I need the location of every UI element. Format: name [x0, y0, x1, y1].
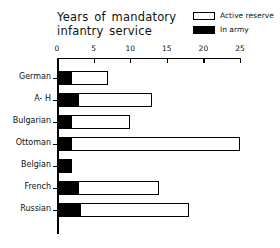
x-tick-10 [130, 59, 131, 63]
stacked-bar [57, 115, 130, 129]
x-tick-5 [94, 59, 95, 63]
bar-row-bulgarian: Bulgarian [57, 112, 247, 134]
x-tick-label-5: 5 [91, 44, 96, 53]
stacked-bar [57, 159, 72, 173]
bar-segment-in-army [57, 203, 81, 217]
chart-title-line-2: infantry service [57, 25, 207, 39]
stacked-bar [57, 71, 108, 85]
bar-segment-in-army [57, 93, 79, 107]
bar-segment-active-reserve [72, 137, 240, 151]
category-label-ottoman: Ottoman [16, 138, 51, 147]
bar-segment-in-army [57, 115, 72, 129]
chart-title-line-1: Years of mandatory [57, 11, 207, 25]
x-tick-label-20: 20 [199, 44, 209, 53]
category-label-german: German [19, 72, 51, 81]
plot-area: 0510152025 GermanA- HBulgarianOttomanBel… [57, 44, 280, 234]
legend-item-active-reserve: Active reserve [193, 10, 279, 21]
x-axis-line [57, 58, 241, 59]
stacked-bar [57, 181, 159, 195]
category-label-french: French [24, 182, 51, 191]
x-tick-label-15: 15 [162, 44, 172, 53]
bar-segment-active-reserve [81, 203, 189, 217]
mandatory-service-bar-chart: Years of mandatory infantry service Acti… [0, 0, 280, 248]
bar-row-a-h: A- H [57, 90, 247, 112]
bar-segment-active-reserve [79, 181, 160, 195]
bar-row-french: French [57, 178, 247, 200]
x-tick-label-10: 10 [125, 44, 135, 53]
category-label-bulgarian: Bulgarian [13, 116, 51, 125]
legend-swatch-active-reserve-icon [193, 12, 215, 20]
x-tick-20 [203, 59, 204, 63]
x-tick-25 [240, 59, 241, 63]
legend-swatch-in-army-icon [193, 26, 215, 34]
bar-row-ottoman: Ottoman [57, 134, 247, 156]
x-tick-15 [167, 59, 168, 63]
x-tick-label-0: 0 [55, 44, 60, 53]
legend-item-in-army: In army [193, 24, 279, 35]
bar-row-belgian: Belgian [57, 156, 247, 178]
bar-segment-in-army [57, 181, 79, 195]
stacked-bar [57, 93, 152, 107]
category-label-belgian: Belgian [21, 160, 51, 169]
bar-row-german: German [57, 68, 247, 90]
legend-label-in-army: In army [220, 25, 249, 34]
category-label-a-h: A- H [34, 94, 51, 103]
chart-legend: Active reserve In army [193, 10, 279, 38]
chart-title: Years of mandatory infantry service [57, 11, 207, 38]
legend-label-active-reserve: Active reserve [220, 11, 274, 20]
bar-segment-active-reserve [79, 93, 152, 107]
x-tick-label-25: 25 [235, 44, 245, 53]
stacked-bar [57, 137, 240, 151]
bar-segment-active-reserve [72, 71, 109, 85]
bar-segment-active-reserve [72, 115, 131, 129]
bar-segment-in-army [57, 137, 72, 151]
category-label-russian: Russian [20, 204, 51, 213]
x-tick-0 [57, 59, 58, 63]
bar-row-russian: Russian [57, 200, 247, 222]
bar-segment-in-army [57, 159, 72, 173]
bar-segment-in-army [57, 71, 72, 85]
stacked-bar [57, 203, 189, 217]
